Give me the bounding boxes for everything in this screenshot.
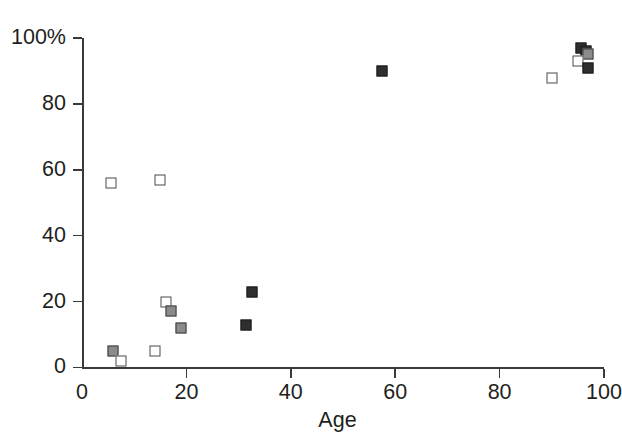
data-point-marker [116, 355, 127, 366]
data-point-marker [155, 174, 166, 185]
data-point-marker [377, 65, 388, 76]
data-point-marker [165, 306, 176, 317]
data-point-marker [150, 345, 161, 356]
data-point-marker [572, 56, 583, 67]
data-point-marker [583, 49, 594, 60]
data-point-marker [546, 72, 557, 83]
data-point-marker [246, 286, 257, 297]
data-point-marker [583, 62, 594, 73]
x-axis-title: Age [0, 408, 619, 433]
data-point-marker [241, 319, 252, 330]
data-point-marker [105, 177, 116, 188]
data-point-marker [176, 322, 187, 333]
x-axis-title-text: Age [318, 408, 356, 432]
